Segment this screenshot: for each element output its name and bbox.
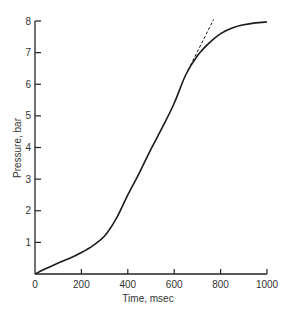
y-tick-label: 1 — [25, 237, 31, 248]
pressure-curve — [35, 22, 267, 274]
x-axis-title: Time, msec — [122, 293, 173, 304]
y-tick-label: 2 — [25, 205, 31, 216]
y-tick-label: 6 — [25, 79, 31, 90]
x-tick-label: 200 — [73, 279, 90, 290]
x-tick-label: 600 — [166, 279, 183, 290]
y-tick-label: 5 — [25, 110, 31, 121]
y-axis-title: Pressure, bar — [12, 117, 23, 178]
x-tick-label: 800 — [212, 279, 229, 290]
x-tick-label: 400 — [119, 279, 136, 290]
x-ticks: 02004006008001000 — [32, 269, 278, 290]
x-tick-label: 1000 — [256, 279, 279, 290]
chart: 02004006008001000 12345678 Time, msec Pr… — [0, 0, 288, 317]
y-tick-label: 4 — [25, 142, 31, 153]
x-tick-label: 0 — [32, 279, 38, 290]
series — [35, 19, 267, 274]
y-tick-label: 7 — [25, 47, 31, 58]
y-ticks: 12345678 — [25, 16, 41, 248]
y-tick-label: 3 — [25, 174, 31, 185]
y-tick-label: 8 — [25, 16, 31, 27]
